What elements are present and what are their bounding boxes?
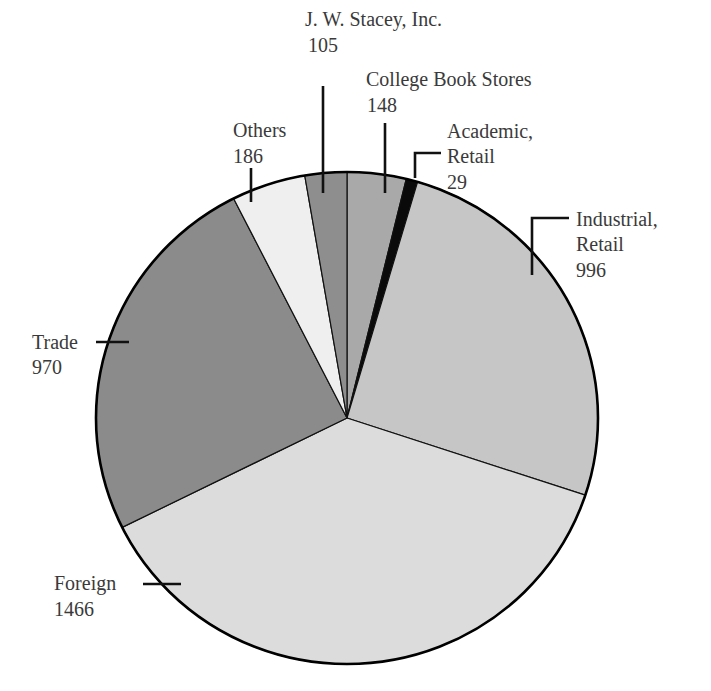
label-industrial-line1: Industrial, bbox=[576, 208, 658, 230]
label-trade-value: 970 bbox=[32, 356, 62, 378]
label-trade-name: Trade bbox=[32, 331, 78, 353]
pie-chart: J. W. Stacey, Inc. 105 College Book Stor… bbox=[0, 0, 711, 691]
label-others-value: 186 bbox=[233, 145, 263, 167]
leader-academic bbox=[415, 153, 441, 178]
label-academic-value: 29 bbox=[447, 171, 467, 193]
label-college-value: 148 bbox=[367, 94, 397, 116]
label-academic-line2: Retail bbox=[447, 145, 495, 167]
label-college-name: College Book Stores bbox=[366, 68, 532, 91]
label-industrial-value: 996 bbox=[576, 259, 606, 281]
label-industrial-line2: Retail bbox=[576, 233, 624, 255]
label-foreign-name: Foreign bbox=[54, 572, 116, 595]
label-others-name: Others bbox=[233, 119, 287, 141]
pie-slices bbox=[96, 172, 598, 664]
label-academic-line1: Academic, bbox=[447, 120, 533, 142]
label-stacey-name: J. W. Stacey, Inc. bbox=[305, 8, 442, 31]
label-stacey-value: 105 bbox=[308, 34, 338, 56]
label-foreign-value: 1466 bbox=[54, 598, 94, 620]
